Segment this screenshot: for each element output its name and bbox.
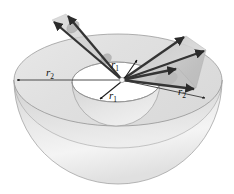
figure-container: r2 r1 r1 r2 (0, 0, 234, 194)
radius-label-r2-left-sub: 2 (50, 72, 54, 81)
center-point (119, 77, 124, 82)
radius-label-r2-right-sub: 2 (182, 91, 186, 100)
radius-label-r1-lower-sub: 1 (113, 95, 117, 104)
hemisphere-ray-diagram: r2 r1 r1 r2 (0, 0, 234, 194)
radius-label-r1-upper-sub: 1 (115, 64, 119, 73)
